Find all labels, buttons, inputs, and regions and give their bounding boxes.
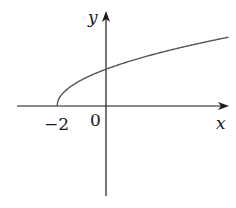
tick-label-neg2: −2 <box>44 114 69 134</box>
sqrt-curve <box>57 37 229 106</box>
x-axis-label: x <box>216 113 226 133</box>
y-axis-label: y <box>87 7 98 27</box>
origin-label: 0 <box>90 110 101 130</box>
function-graph: y x 0 −2 <box>0 0 236 208</box>
